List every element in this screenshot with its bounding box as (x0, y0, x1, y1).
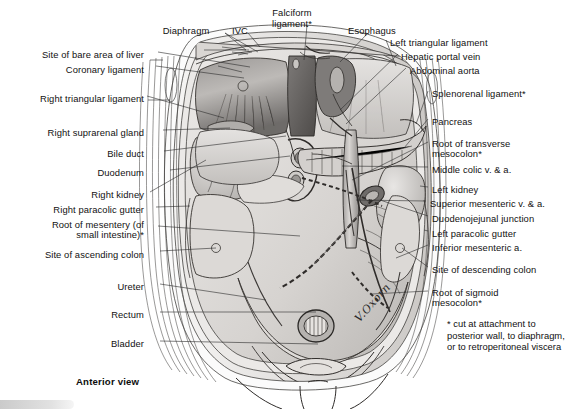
anatomy-figure: DiaphragmIVCFalciform ligament*Esophagus… (0, 0, 566, 409)
anatomy-label-right-7: mesocolon* (432, 149, 482, 160)
anatomy-label-right-10: Superior mesenteric v. & a. (430, 199, 545, 210)
anatomy-label-left-1: Site of bare area of liver (42, 50, 144, 61)
anatomy-label-left-8: Right paracolic gutter (53, 205, 144, 216)
anatomy-label-top-1: Diaphragm (163, 26, 210, 37)
anatomy-label-right-8: Middle colic v. & a. (432, 165, 511, 176)
view-label: Anterior view (76, 376, 139, 387)
anatomy-label-right-12: Left paracolic gutter (432, 229, 516, 240)
site-of-ascending-colon-shape (190, 195, 254, 279)
liver-undersurface (196, 129, 279, 184)
anatomy-label-top-3: Falciform ligament* (272, 8, 312, 29)
anatomy-label-right-9: Left kidney (432, 185, 478, 196)
caption-stub (0, 400, 74, 409)
esophageal-hiatus (330, 67, 344, 93)
anatomy-label-right-1: Left triangular ligament (390, 38, 488, 49)
anatomy-label-right-13: Inferior mesenteric a. (432, 243, 522, 254)
ivc-hepatic-vein-ostium (293, 59, 299, 69)
anatomy-label-left-14: Bladder (111, 339, 144, 350)
anatomy-label-right-4: Splenorenal ligament* (432, 89, 526, 100)
anatomy-label-right-14: Site of descending colon (432, 265, 536, 276)
anatomy-label-right-16: mesocolon* (432, 298, 482, 309)
anatomy-label-left-5: Bile duct (107, 149, 144, 160)
anatomy-label-left-10: small intestine)* (76, 230, 144, 241)
anatomy-label-left-2: Coronary ligament (66, 65, 144, 76)
inferior-vena-cava-shape (288, 56, 317, 136)
anatomy-label-left-7: Right kidney (91, 190, 144, 201)
anatomy-label-right-3: Abdominal aorta (410, 66, 480, 77)
anatomy-label-left-12: Ureter (117, 282, 144, 293)
anatomy-label-left-4: Right suprarenal gland (48, 128, 144, 139)
anatomy-label-top-2: IVC (232, 26, 248, 37)
anatomy-label-left-3: Right triangular ligament (40, 94, 144, 105)
anatomy-label-right-2: Hepatic portal vein (401, 52, 480, 63)
anatomy-label-left-6: Duodenum (97, 168, 144, 179)
anatomy-label-top-4: Esophagus (348, 26, 396, 37)
anatomy-label-right-5: Pancreas (432, 117, 472, 128)
figure-footnote: * cut at attachment to posterior wall, t… (447, 318, 565, 353)
anatomy-label-right-11: Duodenojejunal junction (432, 214, 534, 225)
anatomy-label-left-13: Rectum (111, 310, 144, 321)
anatomy-label-left-11: Site of ascending colon (45, 250, 144, 261)
